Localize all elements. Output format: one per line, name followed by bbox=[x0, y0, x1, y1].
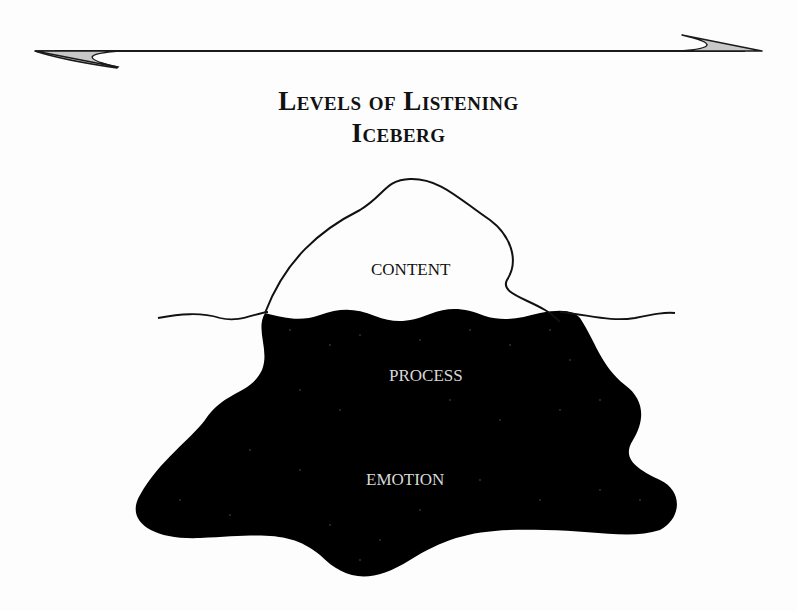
process-level-label: PROCESS bbox=[389, 366, 463, 386]
iceberg-underwater-shape bbox=[136, 309, 677, 577]
double-arrow-icon bbox=[35, 35, 762, 68]
emotion-level-label: EMOTION bbox=[366, 470, 444, 490]
title-line-1: Levels of Listening bbox=[0, 86, 797, 117]
iceberg-tip-outline bbox=[265, 179, 560, 322]
waterline bbox=[158, 312, 675, 319]
content-level-label: CONTENT bbox=[371, 260, 450, 280]
title-line-2: Iceberg bbox=[0, 118, 797, 149]
diagram-canvas: Levels of Listening Iceberg CONTENT PROC… bbox=[0, 0, 797, 611]
